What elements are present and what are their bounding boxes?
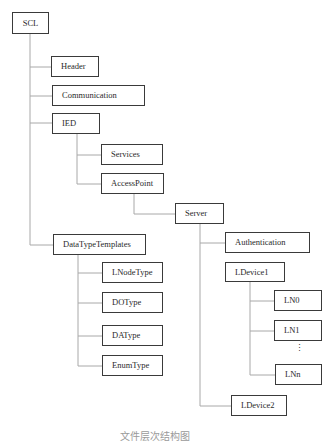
node-ln0: LN0 xyxy=(274,290,322,311)
node-header: Header xyxy=(51,56,99,77)
node-ldevice2: LDevice2 xyxy=(231,395,287,416)
node-enum-type: EnumType xyxy=(102,355,163,376)
node-communication: Communication xyxy=(52,85,145,106)
node-lnn: LNn xyxy=(275,364,322,385)
node-da-type: DAType xyxy=(102,325,163,346)
node-authentication: Authentication xyxy=(225,232,310,253)
node-server: Server xyxy=(175,203,224,224)
node-services: Services xyxy=(101,144,163,165)
node-ied: IED xyxy=(52,113,100,134)
node-data-type-templates: DataTypeTemplates xyxy=(53,234,146,255)
node-ldevice1: LDevice1 xyxy=(225,262,285,282)
figure-caption: 文件层次结构图 xyxy=(120,428,190,443)
node-lnode-type: LNodeType xyxy=(102,262,163,283)
node-do-type: DOType xyxy=(102,292,163,313)
node-scl: SCL xyxy=(12,12,49,34)
node-access-point: AccessPoint xyxy=(101,173,164,194)
vertical-ellipsis: ⋮ xyxy=(295,347,301,350)
node-ln1: LN1 xyxy=(274,320,322,341)
